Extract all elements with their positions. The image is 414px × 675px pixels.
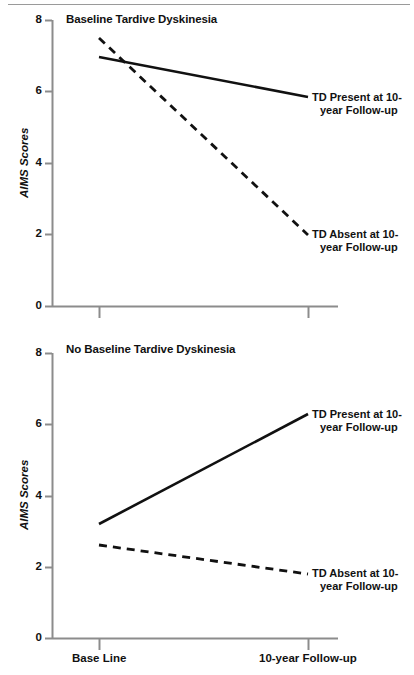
y-tick-label-2-top: 2 [26,227,42,239]
series-label-td-present-bottom-line1: TD Present at 10- [312,408,402,420]
series-label-td-present-top-line2: year Follow-up [312,104,404,117]
x-tick-label-baseline: Base Line [72,652,126,664]
series-label-td-absent-top: TD Absent at 10- year Follow-up [312,228,404,253]
series-label-td-present-bottom: TD Present at 10- year Follow-up [312,408,404,433]
series-line-td-absent-top [99,38,308,235]
y-tick-label-0-top: 0 [26,299,42,311]
plot-area-bottom [0,330,414,675]
panel-title-bottom: No Baseline Tardive Dyskinesia [66,343,235,355]
series-line-td-present-top [99,57,308,97]
y-axis-title-top: AIMS Scores [18,128,30,198]
series-label-td-absent-top-line1: TD Absent at 10- [312,228,398,240]
figure-aims-scores: Baseline Tardive Dyskinesia 8 6 4 2 0 AI… [0,0,414,675]
series-line-td-present-bottom [99,414,308,524]
series-label-td-present-top: TD Present at 10- year Follow-up [312,91,404,116]
panel-baseline-td: Baseline Tardive Dyskinesia 8 6 4 2 0 AI… [0,0,414,330]
y-tick-label-8-top: 8 [26,13,42,25]
y-tick-label-6-top: 6 [26,84,42,96]
y-tick-label-2-bottom: 2 [26,560,42,572]
series-line-td-absent-bottom [99,545,308,574]
plot-area-top [0,0,414,330]
y-axis-title-bottom: AIMS Scores [18,460,30,530]
series-label-td-absent-bottom-line1: TD Absent at 10- [312,567,398,579]
x-tick-label-followup: 10-year Follow-up [259,652,357,664]
series-label-td-absent-bottom: TD Absent at 10- year Follow-up [312,567,404,592]
y-tick-label-0-bottom: 0 [26,631,42,643]
panel-no-baseline-td: No Baseline Tardive Dyskinesia 8 6 4 2 0… [0,330,414,675]
panel-title-top: Baseline Tardive Dyskinesia [66,13,217,25]
series-label-td-present-bottom-line2: year Follow-up [312,421,404,434]
y-tick-label-6-bottom: 6 [26,417,42,429]
series-label-td-present-top-line1: TD Present at 10- [312,91,402,103]
y-tick-label-8-bottom: 8 [26,346,42,358]
series-label-td-absent-top-line2: year Follow-up [312,241,404,254]
series-label-td-absent-bottom-line2: year Follow-up [312,580,404,593]
